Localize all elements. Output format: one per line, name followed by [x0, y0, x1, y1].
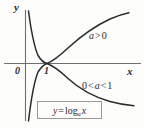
x-axis-label: x	[127, 66, 133, 77]
decreasing-operator-1: <	[87, 80, 95, 91]
equation-text: y=loga x	[53, 105, 86, 116]
logarithm-figure: y x 0 1 a>0 0<a<1 y=loga x	[0, 0, 145, 129]
increasing-branch-annotation: a>0	[89, 31, 107, 41]
x-intercept-tick-label: 1	[44, 66, 49, 76]
increasing-operator: >	[94, 30, 102, 41]
equation-base: a	[78, 111, 81, 117]
equation-function: log	[65, 105, 78, 116]
equation-argument: x	[82, 105, 86, 116]
curve-decreasing	[29, 11, 135, 106]
origin-tick-label: 0	[15, 66, 20, 76]
increasing-value: 0	[102, 30, 107, 41]
decreasing-upper: 1	[107, 80, 112, 91]
decreasing-branch-annotation: 0<a<1	[82, 81, 112, 91]
y-axis-label: y	[14, 2, 19, 13]
equation-box: y=loga x	[37, 101, 102, 119]
equation-relation: =	[57, 105, 65, 116]
decreasing-base: a	[95, 80, 100, 91]
